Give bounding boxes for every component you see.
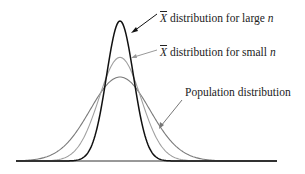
n-symbol: n [268,12,274,24]
xbar-symbol: X [160,12,167,24]
small-n-curve [16,57,277,161]
sampling-distribution-diagram: X distribution for large n X distributio… [0,0,305,174]
large-n-label: X distribution for large n [160,13,274,25]
small-n-arrow [131,50,157,58]
small-n-label: X distribution for small n [160,47,276,59]
large-n-arrow [131,14,157,33]
n-symbol: n [270,46,276,58]
xbar-symbol: X [160,46,167,58]
label-text: distribution for small [167,46,270,58]
label-text: distribution for large [167,12,268,24]
label-text: Population distribution [185,86,291,98]
population-arrow [159,100,182,129]
population-label: Population distribution [185,87,291,99]
